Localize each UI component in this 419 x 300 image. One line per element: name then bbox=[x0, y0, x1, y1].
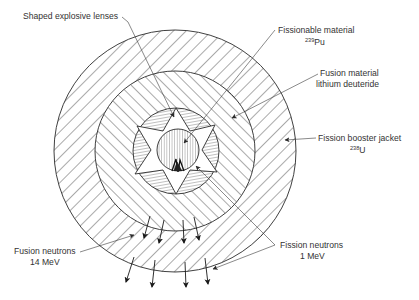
label-fission-booster-jacket: Fission booster jacket bbox=[318, 133, 402, 143]
label-fusion-neutrons-energy: 14 MeV bbox=[30, 257, 60, 267]
pu-symbol: Pu bbox=[314, 37, 325, 47]
pu-mass-number: 239 bbox=[305, 37, 314, 43]
bomb-cross-section-diagram: Shaped explosive lenses Fissionable mate… bbox=[0, 0, 419, 300]
label-fusion-neutrons: Fusion neutrons bbox=[14, 246, 76, 256]
label-fusion-material: Fusion material bbox=[320, 68, 379, 78]
fissionable-core bbox=[157, 129, 199, 172]
label-pu-239: 239Pu bbox=[305, 37, 325, 47]
u-mass-number: 238 bbox=[350, 145, 359, 151]
label-fission-neutrons-energy: 1 MeV bbox=[300, 251, 325, 261]
label-u-238: 238U bbox=[350, 145, 366, 155]
label-shaped-explosive-lenses: Shaped explosive lenses bbox=[23, 11, 118, 21]
label-fissionable-material: Fissionable material bbox=[278, 25, 355, 35]
label-lithium-deuteride: lithium deuteride bbox=[316, 79, 379, 89]
u-symbol: U bbox=[359, 145, 365, 155]
label-fission-neutrons: Fission neutrons bbox=[280, 240, 343, 250]
